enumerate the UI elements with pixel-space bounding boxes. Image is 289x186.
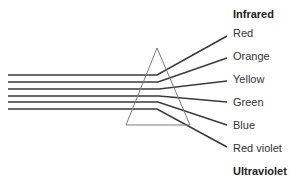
ray-label-blue: Blue [233, 119, 255, 131]
ray-label-yellow: Yellow [233, 73, 264, 85]
ray-blue [8, 102, 227, 125]
light-rays [8, 36, 227, 147]
ray-green [8, 96, 227, 102]
infrared-label: Infrared [233, 8, 274, 20]
ray-orange [8, 58, 227, 82]
ultraviolet-label: Ultraviolet [233, 165, 287, 177]
ray-label-red-violet: Red violet [233, 142, 282, 154]
ray-label-orange: Orange [233, 50, 270, 62]
ray-label-green: Green [233, 96, 264, 108]
ray-label-red: Red [233, 27, 253, 39]
